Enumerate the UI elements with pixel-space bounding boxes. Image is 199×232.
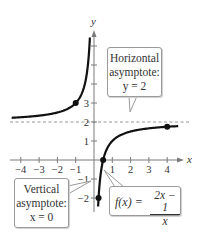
data-point — [96, 195, 102, 201]
horizontal-asymptote-callout: Horizontal asymptote: y = 2 — [107, 47, 162, 97]
x-tick-label: −3 — [34, 164, 45, 175]
y-tick-label: 1 — [84, 136, 89, 147]
y-tick-label: −2 — [78, 193, 89, 204]
callout-line: asymptote: — [15, 196, 68, 210]
x-tick-label: 4 — [165, 164, 171, 175]
data-point — [73, 100, 79, 106]
callout-line: Horizontal — [108, 51, 161, 65]
y-tick-label: 3 — [84, 98, 89, 109]
function-callout: f(x) = 2x − 1 x — [109, 186, 181, 216]
callout-line: Vertical — [15, 182, 68, 196]
function-numerator: 2x − 1 — [150, 189, 180, 215]
function-lhs: f(x) = — [115, 195, 143, 209]
vertical-asymptote-callout: Vertical asymptote: x = 0 — [14, 178, 69, 228]
horizontal-callout-pointer — [129, 96, 137, 112]
x-tick-label: 3 — [146, 164, 151, 175]
data-point — [164, 124, 170, 130]
x-tick-label: −2 — [52, 164, 63, 175]
callout-line: asymptote: — [108, 65, 161, 79]
y-axis-label: y — [90, 15, 96, 27]
y-tick-label: 2 — [84, 117, 89, 128]
function-denominator: x — [150, 215, 180, 227]
curve-left-branch — [12, 38, 90, 118]
x-tick-label: 1 — [110, 164, 115, 175]
x-tick-label: 2 — [128, 164, 133, 175]
callout-line: y = 2 — [108, 79, 161, 93]
data-point — [100, 157, 106, 163]
x-axis-label: x — [186, 153, 192, 165]
callout-line: x = 0 — [15, 210, 68, 224]
function-fraction: 2x − 1 x — [150, 189, 180, 227]
x-tick-label: −4 — [15, 164, 27, 175]
